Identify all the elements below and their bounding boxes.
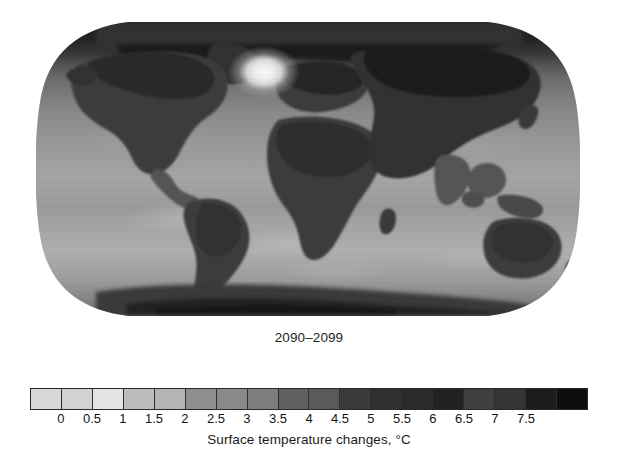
colorbar-axis-title: Surface temperature changes, °C: [0, 432, 618, 447]
colorbar-tick-3.5: 3.5: [269, 410, 287, 428]
colorbar-swatch-9: [309, 389, 340, 409]
colorbar-tick-6: 6: [429, 410, 436, 428]
colorbar-tick-4.5: 4.5: [331, 410, 349, 428]
colorbar-swatch-8: [279, 389, 310, 409]
colorbar-tick-7: 7: [491, 410, 498, 428]
colorbar-tick-6.5: 6.5: [455, 410, 473, 428]
colorbar-tick-7.5: 7.5: [517, 410, 535, 428]
colorbar-swatch-16: [526, 389, 557, 409]
colorbar-swatch-13: [433, 389, 464, 409]
colorbar-swatch-6: [217, 389, 248, 409]
colorbar-swatch-10: [340, 389, 371, 409]
colorbar-swatch-11: [371, 389, 402, 409]
colorbar-tick-2.5: 2.5: [207, 410, 225, 428]
colorbar-swatch-0: [31, 389, 62, 409]
colorbar-swatch-5: [186, 389, 217, 409]
colorbar-tick-0: 0: [57, 410, 64, 428]
colorbar-swatch-14: [464, 389, 495, 409]
colorbar: [30, 388, 588, 410]
global-temperature-map: [36, 22, 580, 316]
colorbar-tick-4: 4: [305, 410, 312, 428]
colorbar-tick-5: 5: [367, 410, 374, 428]
figure-panel: 2090–2099 00.511.522.533.544.555.566.577…: [0, 0, 618, 461]
colorbar-tick-1.5: 1.5: [145, 410, 163, 428]
colorbar-swatch-15: [495, 389, 526, 409]
colorbar-swatches: [30, 388, 588, 410]
map-panel: [36, 22, 580, 316]
colorbar-swatch-1: [62, 389, 93, 409]
period-label: 2090–2099: [0, 330, 618, 345]
colorbar-swatch-3: [124, 389, 155, 409]
colorbar-swatch-2: [93, 389, 124, 409]
colorbar-swatch-12: [402, 389, 433, 409]
colorbar-swatch-7: [248, 389, 279, 409]
colorbar-tick-labels: 00.511.522.533.544.555.566.577.5: [30, 410, 588, 428]
colorbar-tick-5.5: 5.5: [393, 410, 411, 428]
colorbar-tick-3: 3: [243, 410, 250, 428]
colorbar-tick-1: 1: [119, 410, 126, 428]
map-raster-grain: [36, 22, 580, 316]
colorbar-swatch-17: [557, 389, 587, 409]
colorbar-swatch-4: [155, 389, 186, 409]
colorbar-tick-2: 2: [181, 410, 188, 428]
colorbar-tick-0.5: 0.5: [83, 410, 101, 428]
